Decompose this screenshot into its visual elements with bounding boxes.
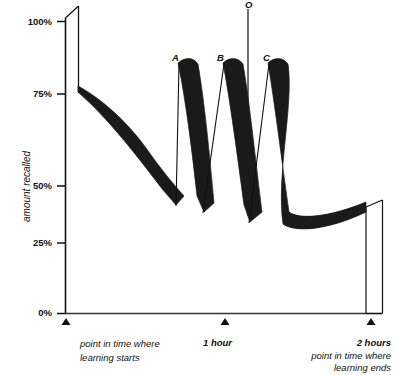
y-tick-marks: [57, 22, 66, 314]
learning-starts-note-line2: learning starts: [80, 352, 140, 364]
decay-segment-after-review-b: [223, 59, 262, 222]
forgetting-curve-band: [78, 59, 366, 229]
x-axis-label-two-hours: 2 hours: [271, 338, 391, 348]
y-tick-label-100: 100%: [6, 17, 52, 27]
decay-segment-initial: [78, 86, 184, 205]
y-tick-label-0: 0%: [6, 308, 52, 318]
y-axis-title: amount recalled: [22, 151, 32, 222]
learning-starts-note-line1: point in time where: [80, 338, 160, 350]
peak-label-a: A: [172, 53, 179, 63]
x-axis-label-one-hour: 1 hour: [203, 338, 232, 348]
marker-two-hours: [367, 318, 376, 325]
review-spike-a: [176, 64, 179, 206]
y-axis: [66, 6, 79, 314]
right-depth-edge: [366, 200, 383, 314]
forgetting-curve-figure: 100% 75% 50% 25% 0% amount recalled A B …: [0, 0, 397, 375]
learning-ends-note-line2: learning ends: [251, 362, 391, 374]
right-top-diagonal: [366, 200, 383, 207]
chart-canvas: [0, 0, 397, 375]
marker-learning-starts: [62, 318, 71, 325]
decay-segment-after-review-a: [178, 59, 214, 212]
y-tick-label-25: 25%: [6, 238, 52, 248]
y-tick-label-75: 75%: [6, 89, 52, 99]
learning-ends-note-line1: point in time where: [251, 350, 391, 362]
peak-label-c: C: [263, 53, 270, 63]
marker-one-hour: [221, 318, 230, 325]
y-axis-top-diagonal: [66, 6, 79, 18]
origin-label: O: [245, 0, 252, 10]
peak-label-b: B: [217, 53, 224, 63]
x-axis-markers: [62, 318, 376, 325]
decay-segment-after-review-c: [268, 59, 366, 229]
final-plateau: [283, 202, 366, 229]
